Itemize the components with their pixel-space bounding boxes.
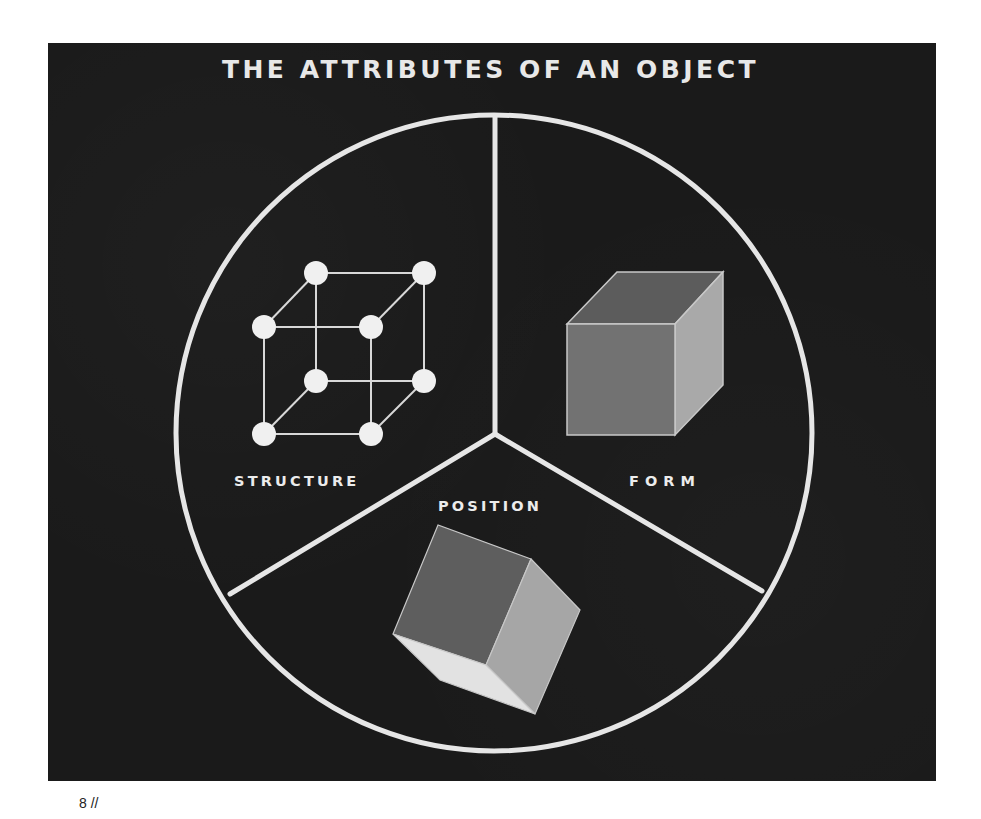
section-label-structure: STRUCTURE [234,473,359,489]
tilted-cube-icon [393,525,580,714]
attributes-pie-diagram [0,0,981,819]
page-number: 8 // [79,795,98,811]
section-label-form: FORM [629,473,701,489]
solid-cube-icon [567,272,723,435]
lattice-cube-icon [252,261,436,446]
section-label-position: POSITION [438,498,542,514]
